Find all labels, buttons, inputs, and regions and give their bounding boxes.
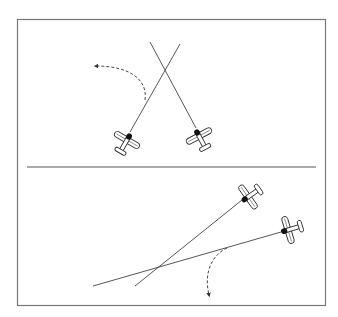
diagram-frame bbox=[18, 20, 326, 306]
diagram-canvas bbox=[0, 0, 338, 317]
lower-aircraft-flight-path bbox=[93, 232, 281, 286]
bottom-panel bbox=[93, 177, 306, 295]
left-aircraft-icon bbox=[107, 127, 142, 160]
upper-aircraft-flight-path bbox=[135, 200, 242, 286]
left-turn-arrow bbox=[96, 66, 145, 100]
top-panel bbox=[96, 42, 218, 160]
right-aircraft-icon bbox=[183, 123, 218, 156]
left-aircraft-flight-path bbox=[130, 44, 180, 132]
upper-aircraft-icon bbox=[234, 177, 268, 213]
lower-aircraft-icon bbox=[277, 212, 306, 245]
downward-turn-arrow bbox=[207, 248, 227, 295]
